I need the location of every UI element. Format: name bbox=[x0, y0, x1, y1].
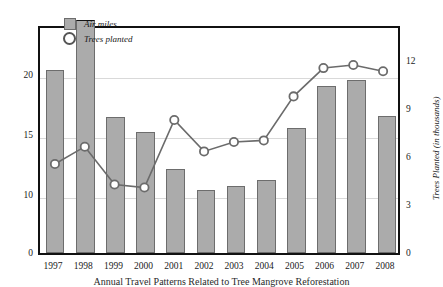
legend-bar-swatch-icon bbox=[62, 18, 77, 30]
y-axis-right-title: Trees Planted (in thousands) bbox=[432, 97, 441, 200]
legend-label-trees-planted: Trees planted bbox=[84, 34, 132, 44]
y-tick-right-9: 9 bbox=[406, 105, 428, 115]
x-tick-1997: 1997 bbox=[36, 262, 70, 272]
x-tick-1999: 1999 bbox=[96, 262, 130, 272]
bar-2005 bbox=[287, 128, 306, 253]
bar-2002 bbox=[197, 190, 216, 253]
bar-2007 bbox=[347, 80, 366, 253]
y-tick-right-0: 0 bbox=[406, 249, 428, 259]
x-tick-2002: 2002 bbox=[187, 262, 221, 272]
bar-1997 bbox=[46, 70, 65, 253]
x-tick-2005: 2005 bbox=[277, 262, 311, 272]
bar-2004 bbox=[257, 180, 276, 253]
bar-2001 bbox=[166, 169, 185, 253]
y-tick-right-6: 6 bbox=[406, 153, 428, 163]
x-tick-2007: 2007 bbox=[338, 262, 372, 272]
bar-series bbox=[40, 28, 398, 253]
y-tick-right-12: 12 bbox=[406, 57, 428, 67]
plot-area bbox=[38, 26, 400, 255]
legend-item-trees-planted: Trees planted bbox=[62, 31, 132, 46]
figure-caption: Annual Travel Patterns Related to Tree M… bbox=[0, 276, 443, 287]
x-tick-2003: 2003 bbox=[217, 262, 251, 272]
x-tick-2001: 2001 bbox=[157, 262, 191, 272]
bar-1999 bbox=[106, 117, 125, 253]
legend-item-air-miles: Air miles bbox=[62, 16, 132, 31]
chart-legend: Air miles Trees planted bbox=[62, 16, 132, 46]
bar-1998 bbox=[76, 20, 95, 253]
x-tick-1998: 1998 bbox=[66, 262, 100, 272]
x-tick-2008: 2008 bbox=[368, 262, 402, 272]
bar-2000 bbox=[136, 132, 155, 253]
legend-label-air-miles: Air miles bbox=[84, 19, 117, 29]
bar-2008 bbox=[378, 116, 397, 253]
legend-circle-marker-icon bbox=[62, 32, 77, 45]
y-tick-left-20: 20 bbox=[11, 71, 33, 81]
y-tick-left-10: 10 bbox=[11, 191, 33, 201]
x-tick-2004: 2004 bbox=[247, 262, 281, 272]
bar-2006 bbox=[317, 86, 336, 253]
y-tick-right-3: 3 bbox=[406, 201, 428, 211]
bar-2003 bbox=[227, 186, 246, 253]
x-tick-2000: 2000 bbox=[127, 262, 161, 272]
y-tick-left-0: 0 bbox=[11, 249, 33, 259]
y-tick-left-15: 15 bbox=[11, 131, 33, 141]
x-tick-2006: 2006 bbox=[308, 262, 342, 272]
